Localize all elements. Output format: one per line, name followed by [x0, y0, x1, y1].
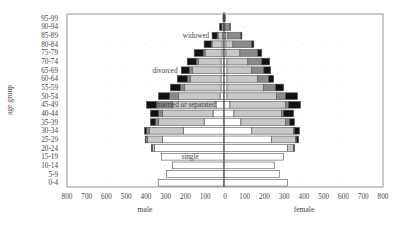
female-bar-married-30-34 [252, 127, 294, 134]
grid-dot [283, 70, 284, 71]
grid-dot [204, 18, 205, 19]
female-bar-married-40-44 [234, 110, 282, 117]
female-bar-divorced-90-94 [225, 24, 230, 31]
grid-dot [243, 35, 244, 36]
female-bar-widowed-60-64 [269, 76, 274, 83]
grid-dot [124, 148, 125, 149]
female-bar-married-20-24 [288, 145, 294, 152]
grid-dot [164, 174, 165, 175]
x-tick-label: 600 [101, 193, 112, 201]
male-bar-widowed-80-84 [204, 41, 211, 48]
grid-dot [124, 182, 125, 183]
grid-dot [84, 78, 85, 79]
male-bar-divorced-55-59 [180, 84, 184, 91]
female-bar-widowed-45-49 [289, 101, 301, 108]
grid-dot [124, 52, 125, 53]
grid-dot [144, 78, 145, 79]
grid-dot [303, 165, 304, 166]
x-tick-label: 100 [239, 193, 250, 201]
male-bar-divorced-65-69 [189, 67, 192, 74]
male-bar-widowed-30-34 [145, 127, 147, 134]
grid-dot [84, 182, 85, 183]
female-bar-single-5-9 [224, 171, 280, 178]
y-tick-label: 45-49 [41, 101, 58, 109]
grid-dot [184, 44, 185, 45]
female-bar-divorced-60-64 [258, 76, 269, 83]
grid-dot [84, 174, 85, 175]
male-bar-married-55-59 [184, 84, 221, 91]
grid-dot [303, 174, 304, 175]
grid-dot [323, 27, 324, 28]
female-bar-widowed-85-89 [241, 32, 242, 39]
male-bar-widowed-20-24 [151, 145, 152, 152]
y-tick-label: 80-84 [41, 41, 58, 49]
grid-dot [323, 156, 324, 157]
grid-dot [124, 139, 125, 140]
grid-dot [104, 113, 105, 114]
grid-dot [263, 27, 264, 28]
grid-dot [303, 96, 304, 97]
grid-dot [164, 78, 165, 79]
female-bar-married-55-59 [227, 84, 264, 91]
male-bar-divorced-60-64 [187, 76, 190, 83]
male-bar-widowed-50-54 [158, 93, 169, 100]
grid-dot [84, 139, 85, 140]
grid-dot [124, 70, 125, 71]
female-bar-single-15-19 [224, 153, 284, 160]
x-tick-label: 400 [141, 193, 152, 201]
grid-dot [124, 96, 125, 97]
y-tick-label: 60-64 [41, 75, 58, 83]
male-bar-single-0-4 [158, 179, 224, 186]
grid-dot [104, 27, 105, 28]
grid-dot [144, 61, 145, 62]
x-tick-label: 200 [180, 193, 191, 201]
female-bar-widowed-80-84 [252, 41, 254, 48]
grid-dot [323, 44, 324, 45]
male-bar-divorced-35-39 [155, 119, 158, 126]
male-bar-widowed-35-39 [150, 119, 155, 126]
female-bar-divorced-80-84 [233, 41, 252, 48]
male-bar-single-45-49 [216, 101, 224, 108]
grid-dot [104, 61, 105, 62]
grid-dot [124, 113, 125, 114]
male-bar-married-50-54 [178, 93, 220, 100]
y-tick-label: 50-54 [41, 93, 58, 101]
grid-dot [323, 139, 324, 140]
y-tick-label: 30-34 [41, 127, 58, 135]
grid-dot [184, 52, 185, 53]
grid-dot [263, 18, 264, 19]
grid-dot [283, 61, 284, 62]
female-bar-divorced-75-79 [240, 50, 258, 57]
female-bar-single-45-49 [224, 101, 230, 108]
grid-dot [343, 122, 344, 123]
grid-dot [323, 52, 324, 53]
female-bar-single-35-39 [224, 119, 241, 126]
grid-dot [303, 156, 304, 157]
grid-dot [124, 156, 125, 157]
y-tick-label: 25-29 [41, 136, 58, 144]
male-bar-widowed-40-44 [150, 110, 158, 117]
y-tick-label: 70-74 [41, 58, 58, 66]
female-bar-widowed-70-74 [262, 58, 270, 65]
male-bar-single-20-24 [154, 145, 224, 152]
y-tick-label: 85-89 [41, 32, 58, 40]
grid-dot [363, 139, 364, 140]
grid-dot [144, 87, 145, 88]
grid-dot [283, 18, 284, 19]
grid-dot [343, 130, 344, 131]
grid-dot [363, 104, 364, 105]
female-bar-married-80-84 [226, 41, 233, 48]
grid-dot [104, 78, 105, 79]
grid-dot [84, 18, 85, 19]
female-bar-divorced-45-49 [286, 101, 289, 108]
grid-dot [104, 174, 105, 175]
grid-dot [363, 87, 364, 88]
female-bar-single-40-44 [224, 110, 234, 117]
grid-dot [144, 27, 145, 28]
grid-dot [144, 104, 145, 105]
grid-dot [363, 96, 364, 97]
y-tick-label: 95-99 [41, 15, 58, 23]
grid-dot [323, 165, 324, 166]
female-bar-divorced-50-54 [277, 93, 286, 100]
grid-dot [124, 35, 125, 36]
